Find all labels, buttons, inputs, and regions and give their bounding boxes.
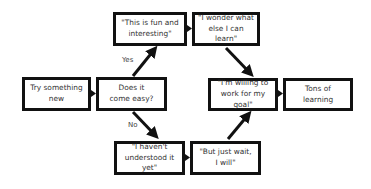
node-text: Does it come easy? <box>110 83 154 104</box>
node-willing-to-work: "I'm willing to work for my goal" <box>208 78 278 111</box>
node-this-is-fun: "This is fun and interesting" <box>113 12 187 46</box>
node-text: Tons of learning <box>289 84 347 105</box>
yes-label: Yes <box>122 56 133 64</box>
node-try-something-new: Try something new <box>22 77 91 111</box>
no-label: No <box>128 121 138 129</box>
node-does-it-come-easy: Does it come easy? <box>96 77 167 111</box>
node-havent-understood: "I haven't understood it yet" <box>114 141 185 175</box>
node-text: "I'm willing to work for my goal" <box>214 78 272 110</box>
node-tons-of-learning: Tons of learning <box>283 78 353 111</box>
node-text: "But just wait, I will" <box>199 147 251 168</box>
yes-arrow <box>133 50 154 76</box>
node-text: "I haven't understood it yet" <box>120 142 179 174</box>
node-but-just-wait: "But just wait, I will" <box>190 141 261 175</box>
node-i-wonder: "I wonder what else I can learn" <box>192 12 260 46</box>
node-text: "I wonder what else I can learn" <box>198 13 254 45</box>
wonder-to-willing-arrow <box>226 48 250 73</box>
node-text: "This is fun and interesting" <box>121 18 178 39</box>
wait-to-willing-arrow <box>228 115 248 139</box>
node-text: Try something new <box>30 83 82 104</box>
